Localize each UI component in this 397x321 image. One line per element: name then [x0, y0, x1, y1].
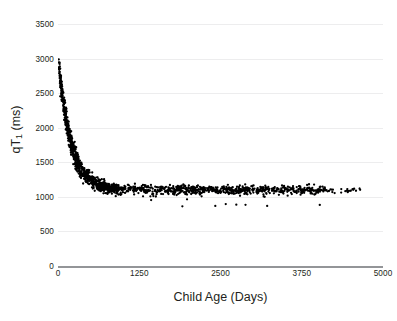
scatter-points: [58, 58, 361, 207]
x-axis-tick-labels: 01250250037505000: [0, 269, 397, 283]
x-tick-label-1250: 1250: [130, 269, 149, 278]
y-axis-title: qT1 (ms): [9, 70, 24, 190]
plot-area: [58, 24, 383, 266]
x-axis-title: Child Age (Days): [0, 290, 397, 304]
x-tick-label-5000: 5000: [374, 269, 393, 278]
y-tick-label-2500: 2500: [35, 89, 54, 98]
scatter-chart-figure: 0500100015002000250030003500 01250250037…: [0, 0, 397, 321]
x-tick-label-2500: 2500: [211, 269, 230, 278]
y-tick-label-1000: 1000: [35, 192, 54, 201]
y-tick-label-2000: 2000: [35, 123, 54, 132]
y-axis-title-main: qT: [9, 139, 23, 154]
x-axis-line: [58, 266, 383, 268]
scatter-points-layer: [58, 24, 383, 266]
x-tick-label-3750: 3750: [292, 269, 311, 278]
y-tick-label-500: 500: [40, 227, 54, 236]
y-tick-label-1500: 1500: [35, 158, 54, 167]
y-tick-label-3000: 3000: [35, 54, 54, 63]
y-tick-label-3500: 3500: [35, 20, 54, 29]
x-axis-title-text: Child Age (Days): [130, 290, 268, 304]
y-axis-title-unit: (ms): [9, 105, 23, 133]
x-tick-label-0: 0: [56, 269, 61, 278]
y-axis-title-subscript: 1: [14, 134, 24, 139]
